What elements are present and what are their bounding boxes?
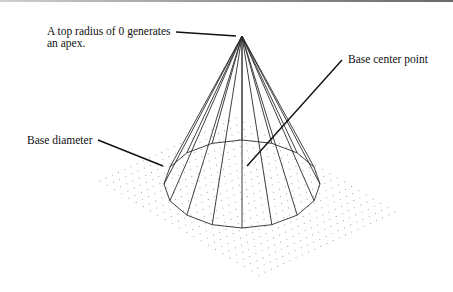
apex-label-line2: an apex. [47, 37, 171, 49]
cone-wireframe [164, 36, 320, 228]
apex-label: A top radius of 0 generates an apex. [47, 25, 171, 49]
base-diameter-leader-line [98, 140, 163, 166]
apex-label-line1: A top radius of 0 generates [47, 25, 171, 37]
base-center-label: Base center point [348, 53, 428, 65]
base-diameter-label: Base diameter [27, 134, 92, 146]
leader-lines [98, 32, 342, 166]
ground-grid [99, 117, 395, 275]
apex-leader-line [176, 32, 236, 36]
